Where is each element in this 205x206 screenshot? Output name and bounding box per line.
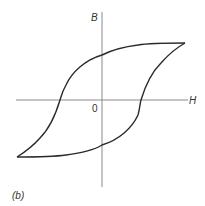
y-axis-label: B	[91, 12, 98, 23]
panel-label: (b)	[12, 190, 24, 201]
x-axis-label: H	[189, 95, 197, 106]
hysteresis-figure: B H 0 (b)	[0, 0, 205, 206]
origin-label: 0	[92, 103, 98, 114]
